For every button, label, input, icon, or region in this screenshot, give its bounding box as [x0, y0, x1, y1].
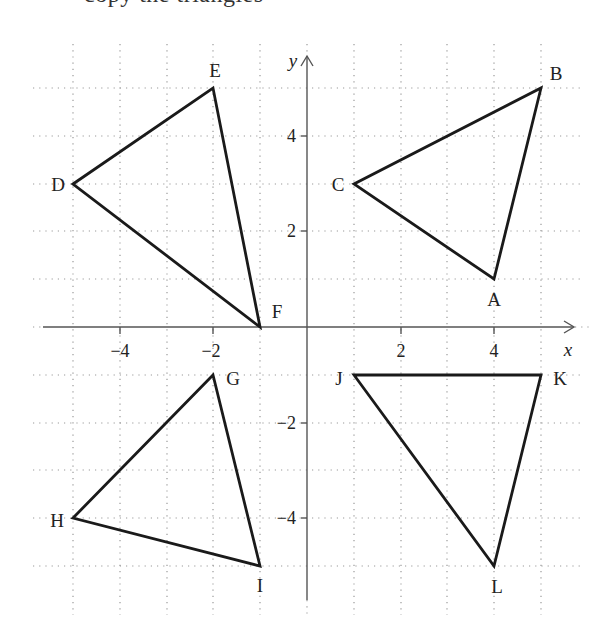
vertex-label-b: B [550, 63, 563, 84]
tick-x-2: 2 [397, 341, 406, 361]
vertex-label-a: A [487, 289, 501, 310]
vertex-label-j: J [335, 368, 342, 389]
tick-y-minus2: −2 [277, 413, 296, 433]
tick-x-4: 4 [490, 341, 499, 361]
tick-x-minus2: −2 [201, 341, 220, 361]
vertex-label-k: K [553, 368, 567, 389]
y-axis-label: y [287, 50, 298, 71]
triangle-abc [354, 88, 541, 279]
vertex-label-d: D [51, 174, 65, 195]
vertex-label-l: L [491, 576, 503, 597]
vertex-label-f: F [272, 301, 283, 322]
tick-y-minus4: −4 [277, 508, 296, 528]
vertex-label-h: H [50, 510, 64, 531]
vertex-label-e: E [209, 60, 221, 81]
vertex-label-i: I [257, 575, 263, 596]
coordinate-plane: −4 −2 2 4 4 2 −2 −4 x y A B C D E F G H … [0, 0, 616, 640]
tick-x-minus4: −4 [110, 341, 129, 361]
x-axis-label: x [563, 339, 573, 360]
vertex-label-g: G [226, 368, 240, 389]
vertex-label-c: C [332, 174, 345, 195]
tick-y-2: 2 [287, 221, 296, 241]
tick-y-4: 4 [287, 126, 296, 146]
triangle-def [73, 88, 260, 327]
